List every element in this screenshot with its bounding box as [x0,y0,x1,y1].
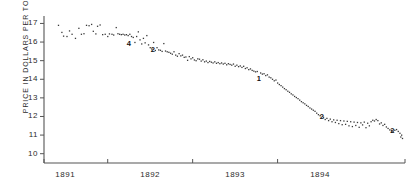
plot-area: 42122 [0,0,419,193]
data-point [348,125,349,126]
x-tick-label: 1892 [130,170,170,179]
data-point [309,107,310,108]
data-point [136,36,137,37]
data-point [184,57,185,58]
data-point [352,126,353,127]
data-point [381,122,382,123]
data-point [63,35,64,36]
data-point [143,38,144,39]
data-point [207,62,208,63]
data-point [126,34,127,35]
data-point [163,43,164,44]
point-count-label: 4 [127,39,132,48]
data-point [195,60,196,61]
data-point [177,56,178,57]
data-point [201,60,202,61]
data-point [138,31,139,32]
data-point [401,134,402,135]
data-point [347,121,348,122]
data-point [172,54,173,55]
data-point [374,120,375,121]
data-point [178,53,179,54]
data-point [369,125,370,126]
data-point [265,75,266,76]
data-point [325,119,326,120]
data-point [359,127,360,128]
data-point [252,70,253,71]
data-point [236,65,237,66]
data-point [350,121,351,122]
data-point [340,120,341,121]
data-point [246,67,247,68]
data-point [189,56,190,57]
data-point [365,127,366,128]
data-point [238,66,239,67]
data-point [219,63,220,64]
data-point [127,35,128,36]
data-point [131,36,132,37]
data-point [116,27,117,28]
data-point [97,26,98,27]
data-point [308,106,309,107]
data-point [197,58,198,59]
data-point [99,24,100,25]
data-point [345,124,346,125]
data-point [250,68,251,69]
data-point [338,123,339,124]
y-tick-label: 16 [18,37,38,46]
data-point [257,71,258,72]
data-point [170,53,171,54]
data-point [91,24,92,25]
data-point [284,88,285,89]
point-count-label: 1 [257,74,261,83]
data-point [212,62,213,63]
data-point [296,97,297,98]
data-point [158,49,159,50]
data-point [221,62,222,63]
data-point [277,82,278,83]
data-point [218,62,219,63]
data-point [355,125,356,126]
data-point [297,98,298,99]
data-point [95,33,96,34]
chart-figure: PRICE IN DOLLARS PER TON 42122 171615141… [0,0,419,193]
data-point [121,34,122,35]
data-point [316,113,317,114]
data-point [139,39,140,40]
data-point [161,51,162,52]
data-point [88,25,89,26]
data-point [387,128,388,129]
data-point [133,37,134,38]
data-point [353,121,354,122]
data-point [69,30,70,31]
data-point [394,130,395,131]
point-count-label: 2 [390,126,394,135]
data-point [402,138,403,139]
x-axis-ticks [44,159,405,163]
data-point [224,63,225,64]
data-point [122,34,123,35]
data-point [202,59,203,60]
data-point [190,58,191,59]
data-point [274,80,275,81]
data-point [364,121,365,122]
data-point [81,34,82,35]
data-point [141,43,142,44]
y-tick-label: 12 [18,111,38,120]
data-point [311,108,312,109]
data-point [294,96,295,97]
data-point [306,105,307,106]
data-point [134,42,135,43]
y-tick-label: 17 [18,18,38,27]
data-point [206,60,207,61]
x-tick-label: 1893 [215,170,255,179]
data-point [282,86,283,87]
data-point [78,28,79,29]
data-point [107,36,108,37]
data-point [330,118,331,119]
data-point [287,91,288,92]
data-point [279,84,280,85]
data-point [223,63,224,64]
data-point [156,47,157,48]
data-point [117,33,118,34]
